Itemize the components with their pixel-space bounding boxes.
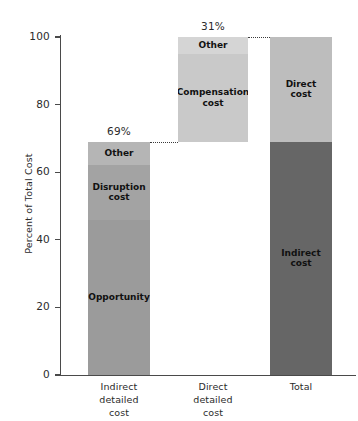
y-tick-label: 60 (10, 165, 50, 177)
y-axis-title: Percent of Total Cost (23, 124, 34, 284)
segment-label: Disruptioncost (91, 182, 146, 203)
y-tick-label: 40 (10, 233, 50, 245)
callout-indirect-detailed-cost: 69% (88, 125, 150, 137)
y-tick-mark (55, 172, 60, 173)
segment-other[interactable]: Other (88, 142, 150, 166)
y-tick-mark (55, 374, 60, 375)
segment-opportunity[interactable]: Opportunity (88, 220, 150, 375)
segment-label: Opportunity (88, 292, 150, 302)
stacked-bar-chart: Percent of Total Cost 020406080100 Oppor… (0, 0, 358, 421)
connector-100-bar2-to-bar3 (248, 37, 270, 38)
y-tick-mark (55, 239, 60, 240)
x-axis-line (60, 375, 356, 376)
y-tick-label: 80 (10, 98, 50, 110)
segment-disruption-cost[interactable]: Disruptioncost (88, 165, 150, 219)
bar-direct-detailed-cost[interactable]: CompensationcostOther (178, 37, 248, 142)
segment-label: Other (198, 40, 229, 50)
segment-label: Indirectcost (280, 248, 321, 269)
segment-other[interactable]: Other (178, 37, 248, 54)
y-tick-mark (55, 36, 60, 37)
y-tick-label: 100 (10, 30, 50, 42)
y-tick-mark (55, 307, 60, 308)
y-axis-line (60, 35, 61, 376)
segment-indirect-cost[interactable]: Indirectcost (270, 142, 332, 375)
x-label-direct-detailed-cost: Directdetailedcost (160, 381, 266, 419)
segment-label: Directcost (285, 79, 318, 100)
callout-direct-detailed-cost: 31% (178, 20, 248, 32)
y-tick-label: 20 (10, 300, 50, 312)
connector-69-bar1-to-bar2 (150, 142, 178, 143)
y-tick-mark (55, 104, 60, 105)
bar-indirect-detailed-cost[interactable]: OpportunityDisruptioncostOther (88, 142, 150, 375)
y-tick-label: 0 (10, 368, 50, 380)
bar-total[interactable]: IndirectcostDirectcost (270, 37, 332, 375)
segment-compensation-cost[interactable]: Compensationcost (178, 54, 248, 142)
segment-label: Compensationcost (178, 87, 248, 108)
segment-label: Other (104, 148, 135, 158)
segment-direct-cost[interactable]: Directcost (270, 37, 332, 142)
x-label-total: Total (252, 381, 350, 394)
x-label-indirect-detailed-cost: Indirectdetailedcost (70, 381, 168, 419)
